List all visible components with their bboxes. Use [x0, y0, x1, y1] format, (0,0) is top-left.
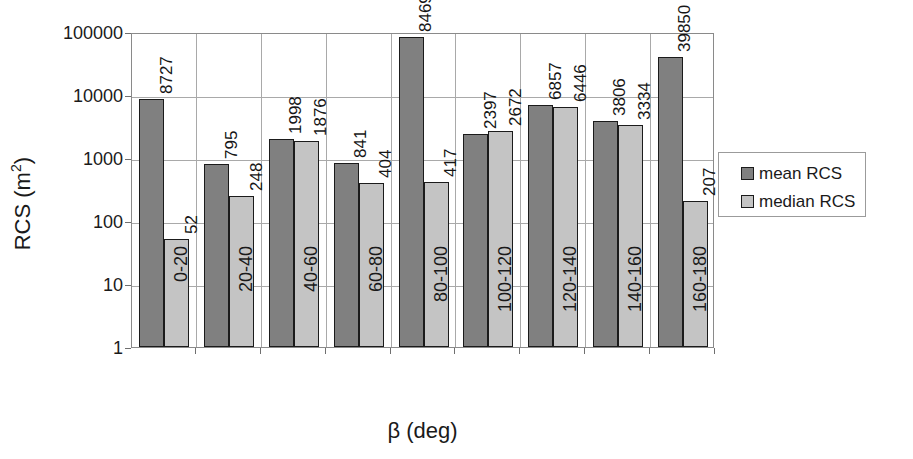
x-axis-tick-mark	[390, 348, 391, 354]
x-axis-tick-label: 20-40	[237, 246, 255, 356]
category-separator	[326, 34, 327, 347]
y-axis-tick-label: 10	[103, 276, 123, 294]
bar-value-label: 795	[223, 131, 240, 159]
category-separator	[455, 34, 456, 347]
y-axis-title-base: RCS (m	[10, 172, 35, 250]
bar-mean-20-40	[204, 164, 229, 347]
bar-value-label: 3334	[636, 82, 653, 120]
x-axis-tick-label: 80-100	[432, 246, 450, 356]
bar-value-label: 3806	[611, 79, 628, 117]
bar-value-label: 841	[352, 129, 369, 157]
x-axis-tick-label: 40-60	[302, 246, 320, 356]
y-axis-tick-label: 1000	[83, 150, 123, 168]
legend-item-median[interactable]: median RCS	[741, 193, 855, 210]
bar-value-label: 8727	[158, 56, 175, 94]
bar-mean-60-80	[334, 163, 359, 347]
chart-legend: mean RCSmedian RCS	[718, 152, 866, 217]
y-axis-tick-label: 1	[113, 339, 123, 357]
x-axis-tick-label: 0-20	[172, 246, 190, 356]
category-separator	[520, 34, 521, 347]
bar-mean-40-60	[269, 139, 294, 347]
bar-value-label: 417	[442, 149, 459, 177]
category-separator	[391, 34, 392, 347]
x-axis-title: β (deg)	[0, 418, 845, 444]
legend-label: mean RCS	[759, 165, 842, 182]
bar-mean-120-140	[528, 105, 553, 347]
bar-value-label: 39850	[676, 5, 693, 52]
x-axis-tick-mark	[584, 348, 585, 354]
x-axis-tick-mark	[260, 348, 261, 354]
x-axis-tick-mark	[325, 348, 326, 354]
x-axis-tick-mark	[519, 348, 520, 354]
bar-mean-160-180	[658, 57, 683, 347]
bar-mean-100-120	[463, 134, 488, 347]
bar-value-label: 2397	[482, 91, 499, 129]
x-axis-tick-label: 160-180	[691, 246, 709, 356]
y-axis-title-tail: )	[10, 157, 35, 164]
y-axis-tick-label: 100	[93, 213, 123, 231]
x-axis-tick-label: 140-160	[626, 246, 644, 356]
bar-value-label: 6446	[572, 64, 589, 102]
bar-value-label: 207	[701, 168, 718, 196]
y-axis-title: RCS (m2)	[8, 104, 35, 304]
x-axis-tick-label: 60-80	[367, 246, 385, 356]
bar-value-label: 84697	[417, 0, 434, 32]
legend-label: median RCS	[759, 193, 855, 210]
bar-value-label: 1876	[312, 98, 329, 136]
x-axis-tick-label: 100-120	[496, 246, 514, 356]
x-axis-tick-mark	[649, 348, 650, 354]
bar-mean-80-100	[399, 37, 424, 347]
y-axis-tick-label: 100000	[63, 24, 123, 42]
bar-mean-140-160	[593, 121, 618, 347]
category-separator	[196, 34, 197, 347]
category-separator	[650, 34, 651, 347]
legend-swatch-mean-icon	[741, 167, 754, 180]
legend-item-mean[interactable]: mean RCS	[741, 165, 842, 182]
rcs-bar-chart-figure: 100000100001000100101 RCS (m2) 0-2020-40…	[0, 0, 913, 459]
legend-swatch-median-icon	[741, 195, 754, 208]
bar-value-label: 52	[183, 215, 200, 234]
bar-value-label: 6857	[547, 62, 564, 100]
x-axis-tick-mark	[195, 348, 196, 354]
bar-value-label: 2672	[507, 88, 524, 126]
x-axis-tick-mark	[714, 348, 715, 354]
bar-value-label: 248	[248, 163, 265, 191]
bar-value-label: 404	[377, 149, 394, 177]
bar-mean-0-20	[139, 99, 164, 347]
x-axis-tick-mark	[454, 348, 455, 354]
x-axis-tick-label: 120-140	[561, 246, 579, 356]
y-axis-title-exponent: 2	[8, 164, 24, 172]
y-axis-tick-label: 10000	[73, 87, 123, 105]
bar-value-label: 1998	[287, 96, 304, 134]
